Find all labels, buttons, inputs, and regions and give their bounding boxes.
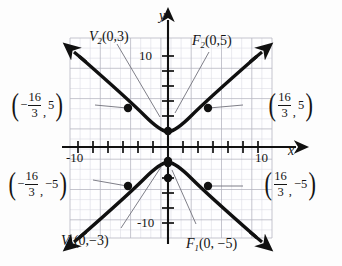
point-upper-left xyxy=(124,104,132,112)
upper-right-second-coord: 5 xyxy=(298,99,304,112)
comma: , xyxy=(40,185,43,199)
point-focus-lower xyxy=(164,174,172,182)
y-tick-label-minus-10: -10 xyxy=(137,215,154,231)
y-tick-label-10: 10 xyxy=(139,48,152,64)
upper-left-point-label: ( − 16 3 , 5 ) xyxy=(10,91,65,120)
x-axis-label: x xyxy=(288,143,294,159)
upper-left-second-coord: 5 xyxy=(48,99,54,112)
lower-right-point-label: ( 16 3 , −5 ) xyxy=(263,170,318,199)
vertex-upper-name: V xyxy=(89,29,98,44)
lower-left-point-label: ( − 16 3 , −5 ) xyxy=(7,170,69,199)
focus-upper-coords: (0,5) xyxy=(205,33,232,48)
comma: , xyxy=(43,106,46,120)
hyperbola-figure xyxy=(0,0,342,266)
x-tick-label-minus-10: -10 xyxy=(66,150,83,166)
lower-left-sign: − xyxy=(17,178,24,191)
comma: , xyxy=(293,106,296,120)
upper-left-numerator: 16 xyxy=(28,91,41,104)
point-lower-right xyxy=(204,182,212,190)
focus-upper-name: F xyxy=(192,33,201,48)
focus-lower-coords: (0, −5) xyxy=(199,236,237,251)
open-paren: ( xyxy=(8,172,15,196)
close-paren: ) xyxy=(309,172,316,196)
upper-left-denominator: 3 xyxy=(32,107,38,120)
upper-left-sign: − xyxy=(20,99,27,112)
vertex-upper-coords: (0,3) xyxy=(102,29,129,44)
close-paren: ) xyxy=(306,93,313,117)
upper-right-point-label: ( 16 3 , 5 ) xyxy=(267,91,315,120)
comma: , xyxy=(289,185,292,199)
focus-lower-name: F xyxy=(186,236,195,251)
lower-left-numerator: 16 xyxy=(25,170,38,183)
upper-right-fraction: 16 3 xyxy=(277,91,292,120)
point-upper-right xyxy=(204,104,212,112)
lower-left-denominator: 3 xyxy=(29,186,35,199)
graph-canvas xyxy=(0,0,342,266)
open-paren: ( xyxy=(264,172,271,196)
lower-right-fraction: 16 3 xyxy=(273,170,288,199)
upper-right-denominator: 3 xyxy=(281,107,287,120)
point-focus-upper xyxy=(164,127,172,135)
point-lower-left xyxy=(124,182,132,190)
lower-left-second-coord: −5 xyxy=(45,178,58,191)
vertex-upper-label: V2(0,3) xyxy=(89,29,129,46)
point-vertex-lower xyxy=(164,159,172,167)
open-paren: ( xyxy=(268,93,275,117)
upper-right-numerator: 16 xyxy=(278,91,291,104)
lower-right-numerator: 16 xyxy=(274,170,287,183)
vertex-lower-label: V1(0,−3) xyxy=(61,233,109,250)
lower-left-fraction: 16 3 xyxy=(24,170,39,199)
y-axis-label: y xyxy=(159,8,165,24)
upper-left-fraction: 16 3 xyxy=(27,91,42,120)
focus-upper-label: F2(0,5) xyxy=(192,33,232,50)
open-paren: ( xyxy=(11,93,18,117)
x-tick-label-10: 10 xyxy=(255,150,268,166)
focus-lower-label: F1(0, −5) xyxy=(186,236,237,253)
close-paren: ) xyxy=(60,172,67,196)
vertex-lower-coords: (0,−3) xyxy=(74,233,109,248)
lower-right-denominator: 3 xyxy=(277,186,283,199)
vertex-lower-name: V xyxy=(61,233,70,248)
close-paren: ) xyxy=(56,93,63,117)
lower-right-second-coord: −5 xyxy=(294,178,307,191)
